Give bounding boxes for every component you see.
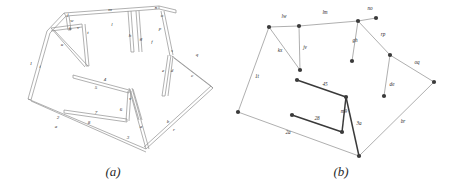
edge-label: oq bbox=[414, 59, 420, 65]
edge-label: b bbox=[167, 119, 170, 124]
graph-node bbox=[432, 80, 436, 84]
skeleton-nodes bbox=[236, 16, 436, 158]
edge-label: 3 bbox=[127, 135, 130, 140]
graph-node bbox=[382, 94, 386, 98]
edge-label: l bbox=[111, 22, 113, 27]
edge-label: u bbox=[61, 42, 64, 47]
edge-label: o bbox=[161, 13, 164, 18]
edge-label: h bbox=[129, 33, 132, 38]
figure-root: jmnolwkvuthgpfsedqc1i45786v2a3abr (a) bbox=[0, 0, 455, 187]
graph-node bbox=[236, 110, 240, 114]
edge-label: jv bbox=[302, 44, 307, 50]
edge-label: 2a bbox=[285, 129, 291, 135]
edge-label: d bbox=[171, 68, 174, 73]
edge-label: 3a bbox=[356, 120, 362, 126]
figure-panel-b: lwlmnoghrpoqkxjv1tde45m9283a2abr (b) bbox=[228, 0, 455, 187]
edge-label: no bbox=[367, 5, 373, 11]
edge-label: m9 bbox=[341, 108, 348, 114]
panel-b-drawing: lwlmnoghrpoqkxjv1tde45m9283a2abr (b) bbox=[228, 0, 455, 187]
edge-label: gh bbox=[352, 37, 358, 43]
edge-label: 1t bbox=[255, 73, 260, 79]
graph-node bbox=[290, 113, 294, 117]
edge-label: p bbox=[158, 26, 162, 31]
graph-node bbox=[350, 59, 354, 63]
edge-label: kx bbox=[278, 47, 283, 53]
edge-label: de bbox=[390, 81, 396, 87]
edge-label: a bbox=[55, 124, 58, 129]
edge-label: rp bbox=[381, 31, 386, 37]
graph-node bbox=[356, 19, 360, 23]
skeleton-thin-edges bbox=[238, 18, 434, 156]
skeleton-thick-edges bbox=[292, 80, 359, 156]
graph-node bbox=[344, 95, 348, 99]
graph-node bbox=[374, 16, 378, 20]
edge-label: 5 bbox=[95, 85, 98, 90]
panel-a-drawing: jmnolwkvuthgpfsedqc1i45786v2a3abr (a) bbox=[0, 0, 227, 187]
panel-b-caption: (b) bbox=[333, 164, 348, 179]
graph-node bbox=[357, 154, 361, 158]
panel-a-labels: jmnolwkvuthgpfsedqc1i45786v2a3abr bbox=[30, 5, 199, 140]
edge-label: 4 bbox=[104, 77, 107, 82]
edge-label: s bbox=[171, 48, 173, 53]
edge-label: 7 bbox=[95, 110, 98, 115]
edge-label: t bbox=[87, 30, 89, 35]
edge-label: 6 bbox=[120, 107, 123, 112]
panel-b-labels: lwlmnoghrpoqkxjv1tde45m9283a2abr bbox=[255, 5, 420, 135]
edge-label: c bbox=[191, 73, 194, 78]
edge-label: g bbox=[140, 36, 143, 41]
edge-label: 1 bbox=[30, 61, 33, 66]
graph-node bbox=[388, 53, 392, 57]
edge-label: q bbox=[196, 52, 199, 57]
graph-node bbox=[295, 78, 299, 82]
edge-label: e bbox=[162, 68, 165, 73]
truss-beams bbox=[28, 6, 213, 152]
graph-node bbox=[267, 25, 271, 29]
edge-label: f bbox=[151, 39, 153, 44]
edge-label: w bbox=[70, 18, 74, 23]
edge-label: br bbox=[401, 118, 407, 124]
panel-a-caption: (a) bbox=[105, 164, 120, 179]
edge-label: 2 bbox=[57, 115, 60, 120]
edge-label: lw bbox=[282, 13, 287, 19]
edge-label: 28 bbox=[314, 115, 320, 121]
graph-node bbox=[340, 130, 344, 134]
graph-node bbox=[297, 24, 301, 28]
edge-label: m bbox=[108, 7, 112, 12]
edge-label: r bbox=[173, 127, 175, 132]
edge-label: 45 bbox=[322, 81, 328, 87]
edge-label: lm bbox=[322, 9, 327, 15]
graph-node bbox=[298, 68, 302, 72]
edge-label: 8 bbox=[88, 120, 91, 125]
figure-panel-a: jmnolwkvuthgpfsedqc1i45786v2a3abr (a) bbox=[0, 0, 227, 187]
